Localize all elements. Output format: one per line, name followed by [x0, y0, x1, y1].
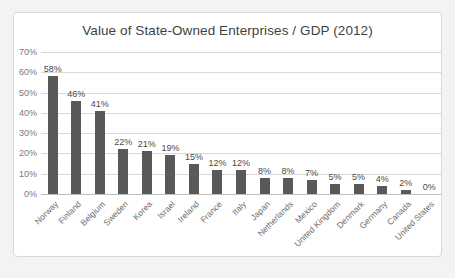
bar-group: 12%Italy: [229, 52, 253, 194]
bar: [377, 186, 387, 194]
bar-group: 2%Canada: [394, 52, 418, 194]
bar-group: 0%United States: [417, 52, 441, 194]
x-axis-category-label: Sweden: [102, 199, 131, 228]
x-axis-category-label: Korea: [131, 199, 154, 222]
bar: [48, 76, 58, 194]
y-axis-tick-label: 60%: [19, 67, 37, 77]
bar: [165, 155, 175, 194]
bar: [212, 170, 222, 194]
x-axis-line: [41, 194, 441, 195]
x-axis-category-label: Italy: [230, 199, 248, 217]
bar-value-label: 8%: [282, 166, 295, 176]
bar-group: 46%Finland: [65, 52, 89, 194]
bar-value-label: 22%: [114, 137, 132, 147]
bar-series: 58%Norway46%Finland41%Belgium22%Sweden21…: [41, 52, 441, 194]
bar: [260, 178, 270, 194]
x-axis-category-label: France: [199, 199, 225, 225]
bar: [118, 149, 128, 194]
bar-value-label: 19%: [161, 143, 179, 153]
bar-value-label: 12%: [208, 158, 226, 168]
bar-value-label: 2%: [399, 178, 412, 188]
bar-value-label: 46%: [67, 89, 85, 99]
x-axis-category-label: Israel: [156, 199, 178, 221]
bar-value-label: 41%: [91, 99, 109, 109]
bar-value-label: 12%: [232, 158, 250, 168]
y-axis-tick-label: 20%: [19, 148, 37, 158]
bar: [71, 101, 81, 194]
bar-group: 8%Netherlands: [276, 52, 300, 194]
bar-value-label: 15%: [185, 152, 203, 162]
bar-group: 8%Japan: [253, 52, 277, 194]
bar-group: 5%Denmark: [347, 52, 371, 194]
bar: [95, 111, 105, 194]
bar-group: 19%Israel: [159, 52, 183, 194]
bar-value-label: 4%: [376, 174, 389, 184]
bar-group: 5%United Kingdom: [323, 52, 347, 194]
y-axis-tick-label: 40%: [19, 108, 37, 118]
bar-value-label: 0%: [423, 182, 436, 192]
bar-group: 22%Sweden: [112, 52, 136, 194]
bar-group: 7%Mexico: [300, 52, 324, 194]
y-axis-tick-label: 30%: [19, 128, 37, 138]
bar-value-label: 5%: [329, 172, 342, 182]
bar-group: 12%France: [206, 52, 230, 194]
bar: [283, 178, 293, 194]
bar: [307, 180, 317, 194]
bar-value-label: 21%: [138, 139, 156, 149]
bar-value-label: 8%: [258, 166, 271, 176]
bar-value-label: 7%: [305, 168, 318, 178]
bar-group: 15%Ireland: [182, 52, 206, 194]
x-axis-category-label: Norway: [32, 199, 59, 226]
x-axis-category-label: Ireland: [176, 199, 201, 224]
bar-group: 4%Germany: [370, 52, 394, 194]
chart-title: Value of State-Owned Enterprises / GDP (…: [14, 23, 441, 38]
bar-group: 41%Belgium: [88, 52, 112, 194]
bar-group: 58%Norway: [41, 52, 65, 194]
plot-area: 0%10%20%30%40%50%60%70% 58%Norway46%Finl…: [41, 52, 441, 194]
y-axis-tick-label: 0%: [24, 189, 37, 199]
chart-card: Value of State-Owned Enterprises / GDP (…: [13, 12, 442, 257]
bar: [401, 190, 411, 194]
y-axis-tick-label: 50%: [19, 88, 37, 98]
bar: [236, 170, 246, 194]
bar: [142, 151, 152, 194]
x-axis-category-label: Belgium: [78, 199, 107, 228]
y-axis-tick-label: 70%: [19, 47, 37, 57]
bar-group: 21%Korea: [135, 52, 159, 194]
bar: [330, 184, 340, 194]
bar-value-label: 58%: [44, 64, 62, 74]
bar: [189, 164, 199, 194]
y-axis-tick-label: 10%: [19, 169, 37, 179]
bar: [354, 184, 364, 194]
bar-value-label: 5%: [352, 172, 365, 182]
